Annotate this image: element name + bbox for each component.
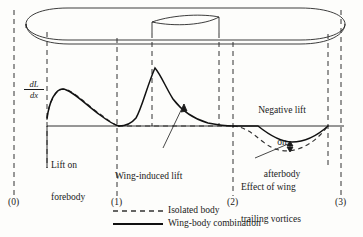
fuselage-lower-edge: [26, 24, 345, 44]
axis-label-denominator: dx: [24, 91, 44, 100]
curve-forebody: [47, 89, 119, 126]
wing-body-lift-distribution-figure: dL dx Lift on forebody Wing-induced lift…: [0, 0, 363, 237]
annotation-lift-on-forebody: Lift on forebody: [51, 139, 85, 224]
station-label-3: (3): [335, 197, 346, 208]
station-label-0: (0): [8, 197, 19, 208]
annotation-trailing-vortices-line-0: Effect of wing: [241, 182, 301, 193]
annotation-lift-on-forebody-line-1: forebody: [51, 192, 85, 203]
wing-upper-surface: [152, 15, 219, 25]
fuselage-top-ellipse: [26, 8, 345, 40]
axis-label-numerator: dL: [24, 80, 44, 89]
annotation-lift-on-forebody-line-0: Lift on: [51, 160, 85, 171]
legend-keys: [113, 211, 163, 224]
annotation-negative-lift-line-0: Negative lift: [243, 105, 321, 116]
fuselage-outline: [26, 8, 345, 44]
axis-label-dl-dx: dL dx: [24, 80, 44, 100]
curve-wing-induced-peak: [119, 68, 233, 126]
station-label-2: (2): [227, 197, 238, 208]
annotation-wing-induced-lift: Wing-induced lift: [115, 150, 182, 203]
legend-label-wing-body-combination: Wing-body combination: [168, 218, 261, 229]
annotation-wing-induced-lift-line-0: Wing-induced lift: [115, 171, 182, 182]
legend-label-isolated-body: Isolated body: [168, 205, 219, 216]
wing-planform: [152, 15, 219, 33]
station-label-1: (1): [111, 197, 122, 208]
annotation-negative-lift-line-1: on: [243, 137, 321, 148]
